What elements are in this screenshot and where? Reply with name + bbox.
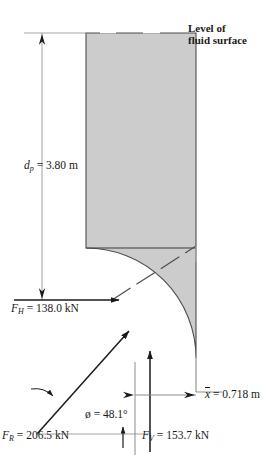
fv-force-label: FV = 153.7 kN bbox=[142, 429, 209, 444]
fluid-body-shape bbox=[86, 33, 196, 358]
xbar-dimension-label: x = 0.718 m bbox=[205, 388, 260, 401]
fluid-surface-label-line1: Level of bbox=[188, 22, 247, 34]
fr-value: = 206.5 kN bbox=[17, 429, 69, 441]
xbar-symbol: x bbox=[205, 388, 210, 401]
fluid-surface-label: Level of fluid surface bbox=[188, 22, 247, 47]
fr-symbol: F bbox=[2, 429, 9, 441]
fh-force-label: FH = 138.0 kN bbox=[11, 302, 79, 317]
angle-symbol: ø bbox=[85, 408, 91, 420]
depth-dimension-label: dp = 3.80 m bbox=[24, 159, 78, 174]
xbar-value: = 0.718 m bbox=[213, 388, 260, 400]
xbar-arrowhead-left bbox=[123, 392, 134, 398]
angle-label: ø = 48.1° bbox=[85, 408, 128, 421]
fluid-surface-label-line2: fluid surface bbox=[188, 34, 247, 46]
fr-force-label: FR = 206.5 kN bbox=[2, 429, 69, 444]
fr-leader-arrow bbox=[31, 389, 53, 396]
fh-subscript: H bbox=[18, 307, 24, 316]
angle-value: = 48.1° bbox=[94, 408, 128, 420]
fr-subscript: R bbox=[9, 434, 14, 443]
fv-symbol: F bbox=[142, 429, 149, 441]
fv-value: = 153.7 kN bbox=[157, 429, 209, 441]
depth-value: = 3.80 m bbox=[37, 159, 78, 171]
fh-symbol: F bbox=[11, 302, 18, 314]
depth-subscript: p bbox=[30, 164, 34, 173]
fv-subscript: V bbox=[149, 434, 154, 443]
fh-value: = 138.0 kN bbox=[27, 302, 79, 314]
